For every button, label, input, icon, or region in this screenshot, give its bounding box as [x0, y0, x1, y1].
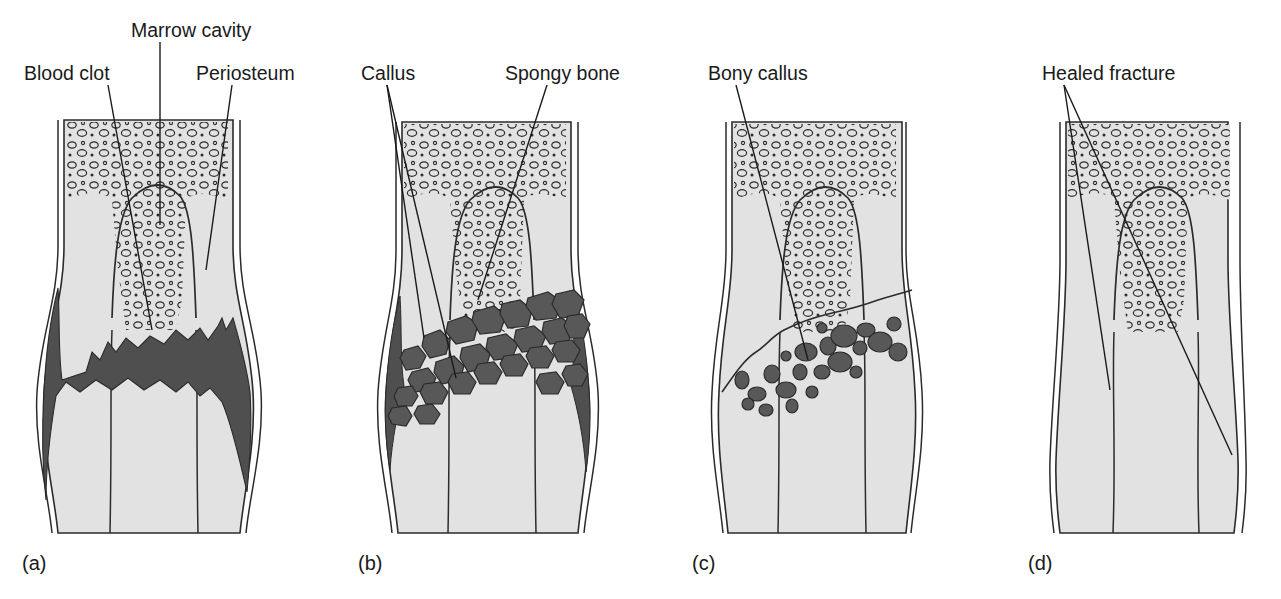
panel-caption-a: (a) [22, 552, 46, 574]
panel-caption-c: (c) [692, 552, 715, 574]
label-spongy-bone: Spongy bone [505, 62, 620, 84]
label-periosteum: Periosteum [196, 62, 295, 84]
label-callus: Callus [361, 62, 415, 84]
label-blood-clot: Blood clot [24, 62, 110, 84]
panel-caption-d: (d) [1028, 552, 1052, 574]
bone-fracture-repair-figure: Blood clot Marrow cavity Periosteum (a) [0, 0, 1281, 599]
label-bony-callus: Bony callus [708, 62, 808, 84]
panel-caption-b: (b) [358, 552, 382, 574]
panel-c: Bony callus (c) [692, 62, 923, 574]
label-marrow-cavity: Marrow cavity [131, 19, 252, 41]
label-healed-fracture: Healed fracture [1042, 62, 1175, 84]
